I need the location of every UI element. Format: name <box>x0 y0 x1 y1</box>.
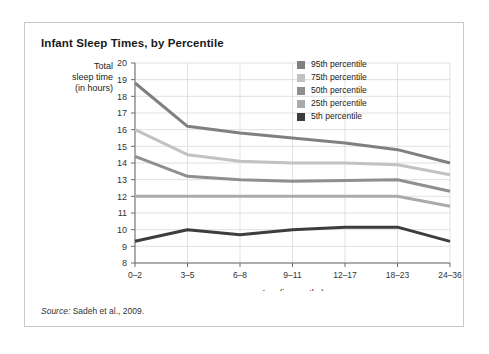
y-tick-label: 18 <box>117 92 127 102</box>
x-tick-label: 24–36 <box>438 270 462 280</box>
y-axis-ticks: 891011121314151617181920 <box>117 58 135 268</box>
legend-label: 50th percentile <box>311 85 367 95</box>
x-axis-ticks: 0–23–56–89–1112–1718–2324–36 <box>128 263 462 280</box>
source-citation: Sadeh et al., 2009. <box>70 306 144 316</box>
y-tick-label: 13 <box>117 175 127 185</box>
x-tick-label: 9–11 <box>283 270 302 280</box>
x-tick-label: 12–17 <box>333 270 357 280</box>
y-axis-title-line: Total <box>94 61 113 71</box>
legend-swatch <box>297 61 305 69</box>
source-label: Source: <box>41 306 70 316</box>
y-axis-title-line: sleep time <box>72 72 113 82</box>
legend-swatch <box>297 74 305 82</box>
x-tick-label: 3–5 <box>180 270 194 280</box>
y-tick-label: 8 <box>122 258 127 268</box>
y-axis-title-line: (in hours) <box>75 83 113 93</box>
legend-label: 75th percentile <box>311 72 367 82</box>
y-tick-label: 16 <box>117 125 127 135</box>
legend-swatch <box>297 100 305 108</box>
y-tick-label: 15 <box>117 142 127 152</box>
source-note: Source: Sadeh et al., 2009. <box>41 306 144 316</box>
sleep-times-line-chart: 891011121314151617181920 0–23–56–89–1112… <box>25 51 465 291</box>
y-tick-label: 19 <box>117 75 127 85</box>
y-tick-label: 14 <box>117 158 127 168</box>
x-tick-label: 18–23 <box>386 270 410 280</box>
page-title: Infant Sleep Times, by Percentile <box>41 37 224 49</box>
x-axis-title: Age (in months) <box>261 288 325 291</box>
x-tick-label: 6–8 <box>233 270 247 280</box>
y-tick-label: 11 <box>118 208 127 218</box>
legend-label: 5th percentile <box>311 111 362 121</box>
legend-swatch <box>297 87 305 95</box>
x-axis-title-text: Age (in months) <box>261 288 325 291</box>
legend-label: 25th percentile <box>311 98 367 108</box>
y-tick-label: 17 <box>117 108 127 118</box>
chart-legend: 95th percentile75th percentile50th perce… <box>297 59 367 121</box>
y-tick-label: 12 <box>117 192 127 202</box>
y-axis-title: Totalsleep time(in hours) <box>72 61 113 93</box>
y-tick-label: 9 <box>122 242 127 252</box>
x-tick-label: 0–2 <box>128 270 142 280</box>
legend-label: 95th percentile <box>311 59 367 69</box>
y-tick-label: 20 <box>117 58 127 68</box>
figure-card: Infant Sleep Times, by Percentile 891011… <box>24 22 464 327</box>
legend-swatch <box>297 113 305 121</box>
y-tick-label: 10 <box>117 225 127 235</box>
